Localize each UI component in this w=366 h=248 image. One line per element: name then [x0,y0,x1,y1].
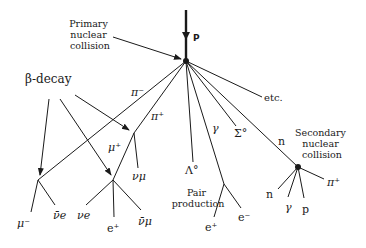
label-pair-production: Pair production [172,187,225,209]
label-beta-decay: β-decay [25,72,72,86]
label-e-plus-beta: e⁺ [107,222,120,235]
label-lambda0: Λ° [184,164,198,177]
label-pair-e-plus: e⁺ [205,221,218,234]
beta-arrow-right [75,95,129,130]
label-mu-plus: μ⁺ [108,141,121,154]
label-secondary-gamma: γ [285,201,292,214]
sigma0-track [186,61,236,126]
beta-arrow-middle [60,99,111,175]
secondary-n-track [278,167,298,189]
label-etc: etc. [264,92,283,103]
label-secondary-n: n [266,188,273,201]
nu-e-track [86,180,113,205]
label-secondary-pi-plus: π⁺ [326,176,340,189]
lambda0-track [186,61,193,162]
label-sigma0: Σ° [234,127,247,140]
label-anti-nu-mu: ν̄μ [138,215,152,228]
label-secondary-p: p [302,203,309,216]
anti-nu-mu-track [113,180,141,210]
anti-nu-e-track [38,180,55,205]
secondary-gamma-track [288,167,298,197]
label-nu-mu: νμ [132,170,146,183]
secondary-pi-plus-track [298,167,324,179]
beta-arrow-left [40,99,49,175]
label-nu-e: νe [77,209,91,222]
label-pi-minus: π⁻ [130,86,144,99]
label-gamma: γ [212,122,219,135]
label-secondary-collision: Secondary nuclear collision [295,127,349,160]
particle-shower-diagram: P Primary nuclear collision π⁻ π⁺ νμ μ⁺ … [0,0,366,248]
incoming-proton-track: P [182,10,200,61]
pointer-arrow-icon [113,37,181,59]
label-p: P [193,33,200,43]
down-arrow-icon [182,32,190,40]
label-pi-plus: π⁺ [150,110,164,123]
primary-collision-annotation: Primary nuclear collision [69,18,181,59]
e-plus-beta-track [113,180,114,217]
label-n: n [278,135,285,148]
pair-e-minus-track [224,184,241,208]
label-anti-nu-e: ν̄e [53,209,67,222]
label-mu-minus: μ⁻ [17,217,30,230]
label-pair-e-minus: e⁻ [238,211,251,224]
svg-text:Primary nuclear co: Primary nuclear collision [69,18,111,51]
mu-minus-track [31,180,38,212]
etc-track [186,61,262,97]
secondary-p-track [298,167,304,198]
nu-mu-track [134,133,138,168]
